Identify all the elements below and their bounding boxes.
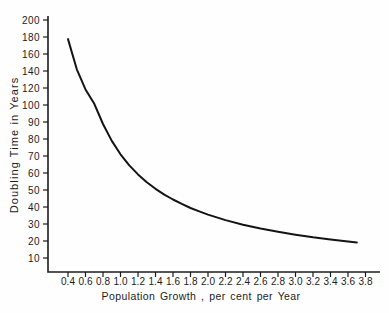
y-tick-label: 120 bbox=[22, 83, 40, 94]
y-tick-label: 90 bbox=[28, 117, 40, 128]
x-tick-label: 3.0 bbox=[289, 276, 303, 287]
y-tick-label: 180 bbox=[22, 32, 40, 43]
doubling-time-figure: 2001801601401201009080706050403020100.40… bbox=[0, 0, 389, 313]
x-tick-label: 2.4 bbox=[236, 276, 250, 287]
x-tick-label: 1.4 bbox=[149, 276, 163, 287]
y-tick-label: 60 bbox=[28, 168, 40, 179]
x-tick-label: 1.2 bbox=[131, 276, 145, 287]
y-axis-title: Doubling Time in Years bbox=[8, 77, 20, 214]
x-tick-label: 3.4 bbox=[324, 276, 338, 287]
x-tick-label: 0.8 bbox=[96, 276, 110, 287]
x-axis-title: Population Growth , per cent per Year bbox=[102, 290, 301, 302]
axis-spine bbox=[48, 16, 380, 272]
y-tick-label: 80 bbox=[28, 134, 40, 145]
y-tick-label: 40 bbox=[28, 202, 40, 213]
x-tick-label: 2.6 bbox=[254, 276, 268, 287]
x-tick-label: 0.6 bbox=[79, 276, 93, 287]
doubling-time-curve bbox=[68, 39, 357, 242]
x-tick-label: 0.4 bbox=[61, 276, 75, 287]
y-tick-label: 20 bbox=[28, 236, 40, 247]
x-tick-label: 3.6 bbox=[341, 276, 355, 287]
y-tick-label: 140 bbox=[22, 66, 40, 77]
y-tick-label: 200 bbox=[22, 15, 40, 26]
x-tick-label: 1.0 bbox=[114, 276, 128, 287]
y-tick-label: 160 bbox=[22, 49, 40, 60]
x-tick-label: 2.0 bbox=[201, 276, 215, 287]
y-tick-label: 100 bbox=[22, 100, 40, 111]
y-tick-label: 10 bbox=[28, 253, 40, 264]
x-tick-label: 3.2 bbox=[306, 276, 320, 287]
y-tick-label: 70 bbox=[28, 151, 40, 162]
x-tick-label: 3.8 bbox=[359, 276, 373, 287]
plot-canvas: 2001801601401201009080706050403020100.40… bbox=[0, 0, 389, 313]
x-tick-label: 1.6 bbox=[166, 276, 180, 287]
y-tick-label: 30 bbox=[28, 219, 40, 230]
x-tick-label: 1.8 bbox=[184, 276, 198, 287]
x-tick-label: 2.2 bbox=[219, 276, 233, 287]
x-tick-label: 2.8 bbox=[271, 276, 285, 287]
y-tick-label: 50 bbox=[28, 185, 40, 196]
